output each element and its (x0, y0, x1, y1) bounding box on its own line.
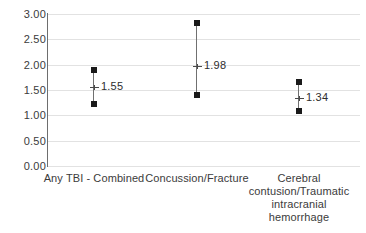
y-axis-tick-label: 0.00 (2, 161, 46, 172)
y-axis-tick-label: 1.50 (2, 85, 46, 96)
ci-upper-marker[interactable] (296, 79, 302, 85)
x-axis-category-label-line: intracranial (239, 198, 359, 211)
x-axis-category-label-line: hemorrhage (239, 211, 359, 224)
y-axis-tick-label: 3.00 (2, 9, 46, 20)
forest-plot-chart: 0.000.501.001.502.002.503.00 1.551.981.3… (0, 0, 366, 233)
estimate-value-label: 1.98 (204, 60, 226, 71)
y-axis-tick-label: 2.50 (2, 34, 46, 45)
gridline (48, 141, 360, 142)
gridline (48, 14, 360, 15)
estimate-value-label: 1.34 (306, 92, 328, 103)
x-axis-category-label: Any TBI - Combined (42, 172, 146, 185)
x-axis-category-label: Concussion/Fracture (141, 172, 253, 185)
ci-lower-marker[interactable] (91, 101, 97, 107)
x-axis-category-labels: Any TBI - CombinedConcussion/FractureCer… (0, 172, 366, 233)
y-axis-tick-label: 2.00 (2, 60, 46, 71)
ci-upper-marker[interactable] (194, 20, 200, 26)
gridline (48, 166, 360, 167)
estimate-tick-vertical (299, 96, 300, 101)
ci-lower-marker[interactable] (194, 92, 200, 98)
x-axis-category-label: Cerebralcontusion/Traumaticintracranialh… (239, 172, 359, 224)
ci-lower-marker[interactable] (296, 108, 302, 114)
x-axis-category-label-line: contusion/Traumatic (239, 185, 359, 198)
ci-upper-marker[interactable] (91, 67, 97, 73)
x-axis-category-label-line: Concussion/Fracture (141, 172, 253, 185)
confidence-interval-line (196, 23, 197, 95)
plot-area: 1.551.981.34 (48, 14, 360, 166)
gridline (48, 115, 360, 116)
x-axis-category-label-line: Any TBI - Combined (42, 172, 146, 185)
estimate-value-label: 1.55 (101, 81, 123, 92)
gridline (48, 39, 360, 40)
estimate-tick-vertical (197, 64, 198, 69)
y-axis-tick-label: 0.50 (2, 136, 46, 147)
x-axis-category-label-line: Cerebral (239, 172, 359, 185)
estimate-tick-vertical (94, 85, 95, 90)
y-axis-tick-label: 1.00 (2, 110, 46, 121)
